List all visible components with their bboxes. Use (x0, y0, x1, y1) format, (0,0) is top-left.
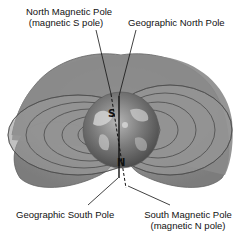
label-north-magnetic-pole-note: (magnetic S pole) (26, 17, 106, 28)
label-north-magnetic-pole: North Magnetic Pole (magnetic S pole) (26, 6, 106, 28)
magnetic-field-illustration: S N (0, 0, 243, 237)
label-geographic-south-pole: Geographic South Pole (16, 209, 114, 220)
label-geographic-north-pole-text: Geographic North Pole (128, 17, 225, 28)
leader-south-magnetic (128, 186, 170, 205)
label-south-magnetic-pole-note: (magnetic N pole) (143, 220, 233, 231)
globe-marker-n: N (117, 157, 125, 168)
label-geographic-north-pole: Geographic North Pole (128, 17, 225, 28)
label-north-magnetic-pole-title: North Magnetic Pole (26, 6, 106, 17)
globe-marker-s: S (108, 108, 115, 119)
label-south-magnetic-pole: South Magnetic Pole (magnetic N pole) (143, 209, 233, 231)
leader-geographic-south (88, 178, 118, 205)
label-geographic-south-pole-text: Geographic South Pole (16, 209, 114, 220)
label-south-magnetic-pole-title: South Magnetic Pole (143, 209, 233, 220)
